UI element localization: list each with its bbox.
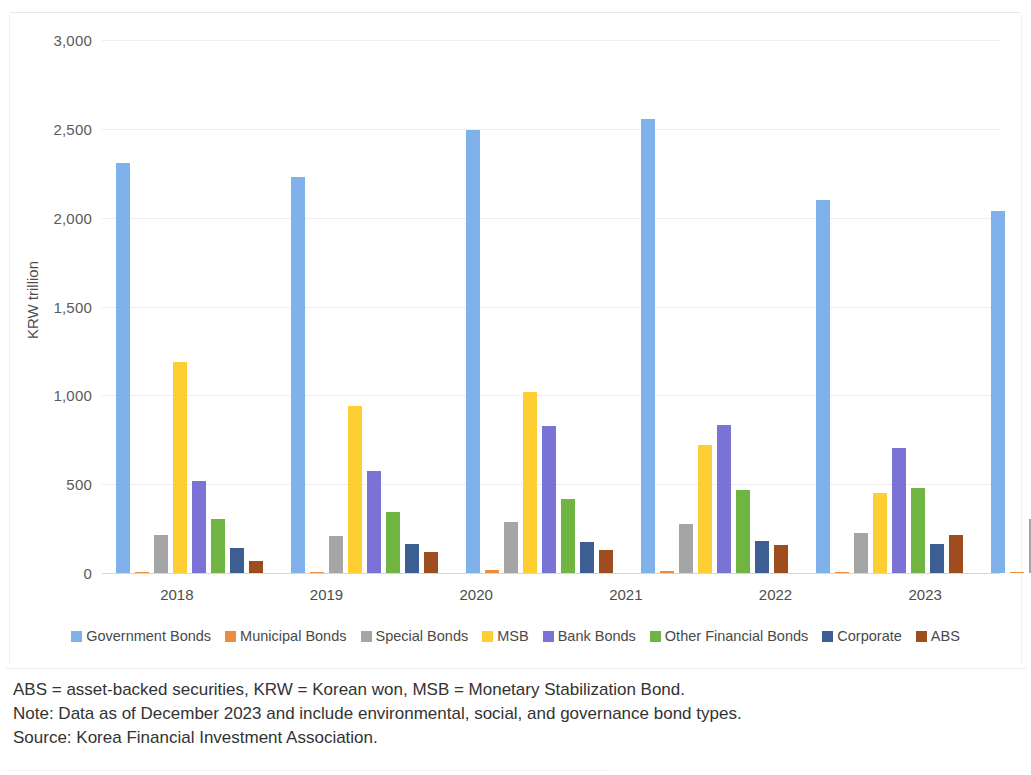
bar	[230, 548, 244, 573]
bar	[774, 545, 788, 573]
bar	[641, 119, 655, 573]
legend-swatch-icon	[361, 631, 372, 642]
bar	[717, 425, 731, 573]
bar	[698, 445, 712, 573]
footnotes-block: ABS = asset-backed securities, KRW = Kor…	[13, 678, 1013, 750]
bar-groups	[102, 40, 1000, 573]
bar	[816, 200, 830, 573]
bar	[679, 524, 693, 573]
bar	[755, 541, 769, 573]
bar	[386, 512, 400, 573]
x-axis-tick-label: 2018	[102, 578, 252, 608]
legend-item-label: Municipal Bonds	[240, 628, 346, 644]
bar	[466, 130, 480, 573]
bar	[873, 493, 887, 573]
x-axis-tick-label: 2023	[850, 578, 1000, 608]
x-axis-tick-label: 2022	[701, 578, 851, 608]
bar	[348, 406, 362, 573]
y-axis-tick-label: 3,000	[53, 32, 92, 49]
bar	[991, 211, 1005, 573]
bar-group-2018	[102, 40, 277, 573]
bar	[291, 177, 305, 573]
bar	[523, 392, 537, 573]
legend-item-label: Other Financial Bonds	[665, 628, 808, 644]
bar	[911, 488, 925, 573]
legend-swatch-icon	[71, 631, 82, 642]
bar	[580, 542, 594, 573]
bar	[424, 552, 438, 573]
bar-group-2023	[977, 40, 1031, 573]
legend-item-label: Corporate	[837, 628, 901, 644]
bar	[930, 544, 944, 573]
legend-item-label: ABS	[931, 628, 960, 644]
bar-group-2020	[452, 40, 627, 573]
grouped-bar-chart: 05001,0001,5002,0002,5003,000 KRW trilli…	[0, 0, 1031, 620]
x-axis-line	[102, 573, 1000, 574]
legend-swatch-icon	[543, 631, 554, 642]
chart-page: 05001,0001,5002,0002,5003,000 KRW trilli…	[0, 0, 1031, 775]
bar	[599, 550, 613, 573]
legend-item-label: Bank Bonds	[558, 628, 636, 644]
bar	[949, 535, 963, 573]
x-axis-tick-label: 2019	[252, 578, 402, 608]
y-axis: 05001,0001,5002,0002,5003,000	[0, 0, 102, 620]
legend-item[interactable]: Other Financial Bonds	[650, 628, 808, 644]
chart-legend: Government BondsMunicipal BondsSpecial B…	[0, 628, 1031, 644]
bar-group-2021	[627, 40, 802, 573]
legend-item[interactable]: Government Bonds	[71, 628, 211, 644]
legend-item-label: Government Bonds	[86, 628, 211, 644]
legend-swatch-icon	[650, 631, 661, 642]
y-axis-tick-label: 2,500	[53, 120, 92, 137]
bar-group-2022	[802, 40, 977, 573]
legend-item[interactable]: MSB	[482, 628, 528, 644]
bar	[561, 499, 575, 573]
footnote-line: Note: Data as of December 2023 and inclu…	[13, 702, 1013, 726]
y-axis-tick-label: 1,500	[53, 298, 92, 315]
bar	[329, 536, 343, 573]
legend-item-label: MSB	[497, 628, 528, 644]
footnote-line: Source: Korea Financial Investment Assoc…	[13, 726, 1013, 750]
bar	[736, 490, 750, 574]
bar	[116, 163, 130, 573]
bar	[192, 481, 206, 573]
bar	[504, 522, 518, 573]
legend-item[interactable]: Special Bonds	[361, 628, 469, 644]
y-axis-tick-label: 2,000	[53, 209, 92, 226]
y-axis-tick-label: 1,000	[53, 387, 92, 404]
bar-group-2019	[277, 40, 452, 573]
bar	[405, 544, 419, 573]
legend-swatch-icon	[225, 631, 236, 642]
bar	[1010, 572, 1024, 573]
scan-artifact-bottom	[6, 668, 1026, 669]
bar	[892, 448, 906, 573]
footnote-line: ABS = asset-backed securities, KRW = Kor…	[13, 678, 1013, 702]
legend-item[interactable]: ABS	[916, 628, 960, 644]
y-axis-tick-label: 500	[66, 476, 92, 493]
legend-item-label: Special Bonds	[376, 628, 469, 644]
legend-swatch-icon	[916, 631, 927, 642]
y-axis-title: KRW trillion	[24, 261, 41, 339]
legend-swatch-icon	[482, 631, 493, 642]
x-axis-tick-label: 2020	[401, 578, 551, 608]
bar	[542, 426, 556, 573]
scan-artifact-footer	[6, 770, 606, 771]
legend-swatch-icon	[822, 631, 833, 642]
legend-item[interactable]: Bank Bonds	[543, 628, 636, 644]
y-axis-tick-label: 0	[83, 565, 92, 582]
legend-item[interactable]: Corporate	[822, 628, 901, 644]
legend-item[interactable]: Municipal Bonds	[225, 628, 346, 644]
bar	[249, 561, 263, 573]
bar	[211, 519, 225, 573]
bar	[173, 362, 187, 573]
x-axis-tick-label: 2021	[551, 578, 701, 608]
bar	[367, 471, 381, 573]
bar	[154, 535, 168, 573]
bar	[854, 533, 868, 573]
x-axis: 201820192020202120222023	[102, 578, 1000, 608]
